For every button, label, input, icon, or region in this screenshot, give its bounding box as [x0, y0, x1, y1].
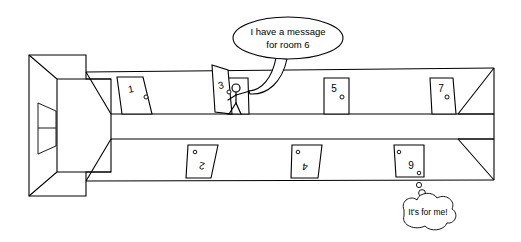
- door-5-knob[interactable]: [340, 95, 344, 99]
- door-6-knob-lower[interactable]: [417, 171, 421, 175]
- far-end-bottom: [458, 139, 494, 180]
- door-2-knob[interactable]: [193, 150, 197, 154]
- door-7[interactable]: 7: [430, 78, 456, 114]
- cartoon-canvas: 1 3 5 7: [0, 0, 521, 242]
- lower-wall-doors: 2 4 9: [186, 145, 424, 178]
- door-1-knob[interactable]: [144, 95, 148, 99]
- upper-wall-doors: 1 3 5 7: [117, 65, 456, 114]
- thought-dot-small: [416, 182, 421, 187]
- speech-bubble-tail: [249, 58, 287, 94]
- far-end-top: [458, 68, 494, 114]
- door-5-number: 5: [331, 83, 337, 94]
- thought-bubble-text: It's for me!: [408, 207, 447, 217]
- door-3-knob[interactable]: [227, 90, 231, 94]
- door-6-knob-upper[interactable]: [397, 150, 401, 154]
- speech-bubble-line-2: for room 6: [266, 39, 309, 50]
- speech-bubble-line-1: I have a message: [251, 26, 326, 37]
- upper-wall-top-edge: [86, 68, 494, 72]
- corridor-drawing: 1 3 5 7: [0, 0, 521, 242]
- door-7-knob[interactable]: [445, 95, 449, 99]
- door-3[interactable]: 3: [212, 65, 249, 114]
- door-1[interactable]: 1: [117, 77, 152, 114]
- door-7-number: 7: [438, 83, 444, 94]
- door-4[interactable]: 4: [291, 145, 322, 178]
- upper-wall-near-bevel: [86, 72, 111, 114]
- lower-wall-near-bevel: [86, 139, 111, 181]
- door-4-knob[interactable]: [296, 150, 300, 154]
- door-6[interactable]: 9: [394, 145, 424, 177]
- room-six-thought-bubble: It's for me!: [403, 182, 456, 229]
- left-end-outer-wall: [29, 55, 111, 196]
- left-wall-window: [38, 103, 56, 154]
- door-6-number: 9: [408, 160, 414, 171]
- door-5[interactable]: 5: [324, 78, 349, 114]
- door-2[interactable]: 2: [186, 145, 218, 178]
- lower-wall-bottom-edge: [86, 180, 494, 181]
- left-end-inner-opening: [29, 55, 57, 196]
